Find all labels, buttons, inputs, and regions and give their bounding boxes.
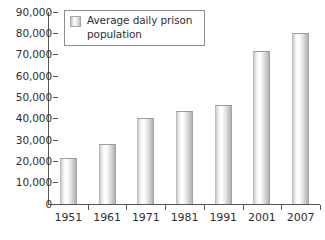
bar-1971 [137, 118, 154, 204]
y-axis-tick-label: 70,000 [16, 49, 53, 60]
y-axis-tick-label: 30,000 [16, 134, 53, 145]
x-axis-tick-mark [126, 205, 127, 210]
x-axis-tick-label: 1991 [204, 212, 243, 223]
x-axis-tick-label: 2001 [243, 212, 282, 223]
legend-label: Average daily prison population [87, 14, 200, 41]
x-axis-tick-label: 1971 [126, 212, 165, 223]
y-axis-tick-label: 50,000 [16, 92, 53, 103]
y-axis-tick-label: 20,000 [16, 156, 53, 167]
x-axis-tick-mark [165, 205, 166, 210]
bar-2007 [292, 33, 309, 204]
bar-2001 [253, 51, 270, 204]
x-axis-tick-mark [204, 205, 205, 210]
bar-1991 [215, 105, 232, 204]
x-axis-tick-label: 1951 [49, 212, 88, 223]
x-axis-line [48, 204, 320, 205]
bar-1981 [176, 111, 193, 204]
legend-swatch-icon [70, 16, 81, 27]
y-axis-tick-label: 10,000 [16, 177, 53, 188]
x-axis-tick-mark [320, 205, 321, 210]
bar-1951 [60, 158, 77, 205]
x-axis-tick-label: 1981 [165, 212, 204, 223]
x-axis-tick-mark [281, 205, 282, 210]
y-axis-tick-label: 80,000 [16, 28, 53, 39]
y-axis-tick-label: 60,000 [16, 70, 53, 81]
y-axis-tick-label: 90,000 [16, 6, 53, 17]
bar-1961 [99, 144, 116, 204]
bar-chart: 010,00020,00030,00040,00050,00060,00070,… [0, 0, 325, 240]
y-axis-tick-label: 40,000 [16, 113, 53, 124]
x-axis-tick-mark [88, 205, 89, 210]
x-axis-tick-mark [243, 205, 244, 210]
x-axis-tick-label: 2007 [281, 212, 320, 223]
x-axis-tick-label: 1961 [88, 212, 127, 223]
chart-legend: Average daily prison population [64, 10, 205, 46]
